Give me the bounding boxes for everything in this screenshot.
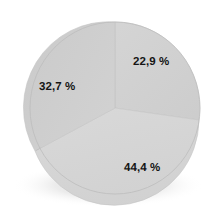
pie-slice-label-1: 22,9 %: [133, 57, 169, 69]
pie-slice-label-3: 44,4 %: [124, 163, 160, 175]
pie-chart-figure: 22,9 % 32,7 % 44,4 %: [0, 0, 212, 216]
pie-slice-1: [115, 22, 200, 120]
pie-slice-label-2: 32,7 %: [39, 82, 75, 94]
pie-chart-canvas: [0, 0, 212, 216]
